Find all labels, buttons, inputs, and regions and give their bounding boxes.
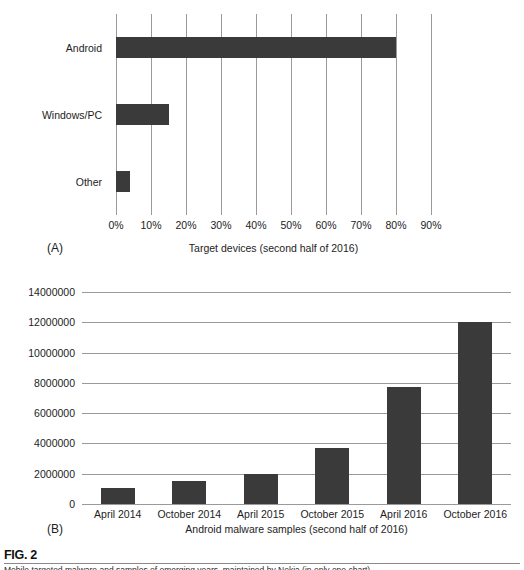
chart-b-gridline: 4000000 [82,443,511,444]
chart-b-bar [315,448,349,504]
chart-a-bar [116,171,130,192]
chart-b-y-tick-label: 8000000 [34,377,75,389]
chart-a-category-labels: AndroidWindows/PCOther [0,14,110,215]
chart-a-x-tick-label: 30% [210,218,231,232]
chart-b-gridline: 8000000 [82,383,511,384]
chart-b-category-label: April 2016 [380,508,427,521]
chart-b-y-tick-label: 14000000 [28,286,75,298]
chart-b-bar [101,488,135,504]
chart-a-x-tick-label: 40% [245,218,266,232]
figure-caption: Mobile targeted malware and samples of e… [4,565,520,570]
chart-b-y-tick-label: 10000000 [28,347,75,359]
chart-b-y-tick-label: 12000000 [28,316,75,328]
chart-b-gridline: 6000000 [82,413,511,414]
chart-a-plot-area [116,14,431,215]
chart-a-x-tick-label: 10% [140,218,161,232]
chart-b-gridline: 14000000 [82,292,511,293]
chart-a-category-label: Windows/PC [42,108,102,122]
chart-a-bar [116,104,169,125]
chart-a-gridline [431,14,432,215]
chart-b-plot-area: 0200000040000006000000800000010000000120… [82,292,511,504]
chart-b-gridline: 10000000 [82,353,511,354]
panel-b-tag: (B) [47,521,63,537]
chart-a-x-tick-label: 20% [175,218,196,232]
chart-b-category-label: April 2014 [94,508,141,521]
chart-a-x-tick-label: 0% [108,218,123,232]
chart-a-category-label: Android [66,41,102,55]
chart-b-bar [458,322,492,504]
chart-panel-a: AndroidWindows/PCOther 0%10%20%30%40%50%… [0,0,524,268]
chart-b-axis-title: Android malware samples (second half of … [82,522,511,536]
chart-b-category-label: October 2014 [157,508,221,521]
chart-a-x-tick-label: 70% [350,218,371,232]
chart-b-y-tick-label: 4000000 [34,437,75,449]
chart-b-category-label: April 2015 [237,508,284,521]
chart-b-gridline: 0 [82,504,511,505]
chart-a-gridline [396,14,397,215]
chart-b-category-labels: April 2014October 2014April 2015October … [82,508,511,522]
chart-b-bar [387,387,421,504]
chart-b-gridline: 2000000 [82,474,511,475]
chart-b-y-tick-label: 6000000 [34,407,75,419]
panel-a-tag: (A) [47,240,63,256]
chart-a-x-tick-label: 80% [385,218,406,232]
chart-b-y-tick-label: 0 [69,498,75,510]
chart-b-gridline: 12000000 [82,322,511,323]
chart-b-bar [172,481,206,504]
chart-a-bar [116,37,396,58]
chart-b-category-label: October 2016 [443,508,507,521]
chart-a-x-tick-label: 50% [280,218,301,232]
chart-b-y-tick-label: 2000000 [34,468,75,480]
chart-a-x-tick-label: 90% [420,218,441,232]
chart-a-x-tick-labels: 0%10%20%30%40%50%60%70%80%90% [0,218,524,234]
figure-2: AndroidWindows/PCOther 0%10%20%30%40%50%… [0,0,524,570]
caption-divider [4,563,520,564]
chart-panel-b: 0200000040000006000000800000010000000120… [0,272,524,540]
chart-a-x-tick-label: 60% [315,218,336,232]
chart-a-axis-title: Target devices (second half of 2016) [116,241,431,255]
figure-number-label: FIG. 2 [4,548,37,562]
chart-a-category-label: Other [76,175,102,189]
chart-b-category-label: October 2015 [300,508,364,521]
chart-b-bar [244,474,278,504]
